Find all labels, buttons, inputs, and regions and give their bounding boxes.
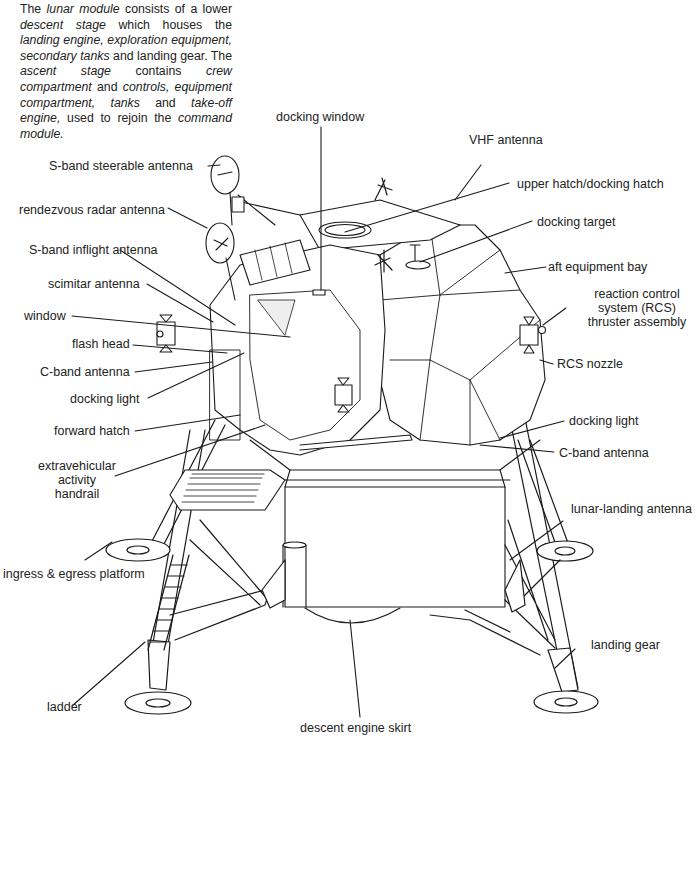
leader-rcs-assembly <box>543 308 566 325</box>
label-rcs-thruster-assembly: reaction control system (RCS) thruster a… <box>582 287 692 329</box>
label-upper-hatch: upper hatch/docking hatch <box>517 177 664 191</box>
label-vhf-antenna: VHF antenna <box>469 133 543 147</box>
leader-aft-equipment-bay <box>505 267 546 273</box>
label-rendezvous-radar-antenna: rendezvous radar antenna <box>19 203 165 217</box>
label-landing-gear: landing gear <box>591 638 660 652</box>
leader-rendezvous-radar <box>168 208 207 228</box>
label-forward-hatch: forward hatch <box>54 424 130 438</box>
leader-c-band-right <box>480 445 554 452</box>
label-ingress-egress-platform: ingress & egress platform <box>3 567 145 581</box>
label-flash-head: flash head <box>72 337 130 351</box>
label-docking-target: docking target <box>537 215 616 229</box>
label-lunar-landing-antenna: lunar-landing antenna <box>571 502 692 516</box>
leader-descent-engine-skirt <box>350 620 360 717</box>
leader-forward-hatch <box>135 415 240 431</box>
label-c-band-antenna-left: C-band antenna <box>40 365 130 379</box>
label-ladder: ladder <box>47 700 82 714</box>
label-c-band-antenna-right: C-band antenna <box>559 446 649 460</box>
label-s-band-steerable-antenna: S-band steerable antenna <box>49 159 193 173</box>
label-descent-engine-skirt: descent engine skirt <box>300 721 411 735</box>
ingress-egress-platform-drawing <box>170 470 285 510</box>
label-aft-equipment-bay: aft equipment bay <box>548 260 647 274</box>
label-docking-window: docking window <box>276 110 364 124</box>
label-window: window <box>24 309 66 323</box>
label-docking-light-right: docking light <box>569 414 639 428</box>
label-eva-handrail: extravehicular activity handrail <box>36 459 118 501</box>
descent-stage <box>250 440 540 623</box>
label-docking-light-left: docking light <box>70 392 140 406</box>
label-s-band-inflight-antenna: S-band inflight antenna <box>29 243 158 257</box>
label-rcs-nozzle: RCS nozzle <box>557 357 623 371</box>
leader-c-band-left <box>135 362 212 372</box>
label-scimitar-antenna: scimitar antenna <box>48 277 140 291</box>
